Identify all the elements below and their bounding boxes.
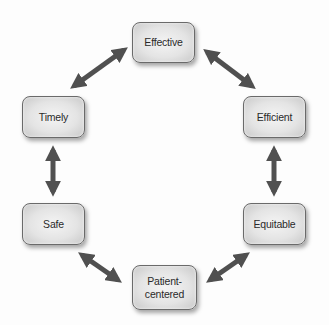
arrow-equitable-patient-centered <box>210 255 246 280</box>
node-patient-centered: Patient- centered <box>132 265 197 310</box>
node-efficient: Efficient <box>243 96 306 138</box>
node-label-line2: centered <box>145 288 184 300</box>
node-safe: Safe <box>22 203 85 245</box>
node-label-line1: Patient- <box>147 275 182 287</box>
node-label: Efficient <box>257 111 292 123</box>
arrow-timely-effective <box>74 50 124 86</box>
node-label: Effective <box>144 36 182 48</box>
node-timely: Timely <box>22 96 85 138</box>
arrow-safe-patient-centered <box>82 255 118 280</box>
node-label: Safe <box>43 218 64 230</box>
node-equitable: Equitable <box>243 203 306 245</box>
arrow-effective-efficient <box>207 52 252 86</box>
diagram-canvas: Effective Timely Efficient Safe Equitabl… <box>0 0 329 325</box>
node-label: Timely <box>39 111 68 123</box>
node-label: Equitable <box>254 218 296 230</box>
node-effective: Effective <box>132 22 195 63</box>
